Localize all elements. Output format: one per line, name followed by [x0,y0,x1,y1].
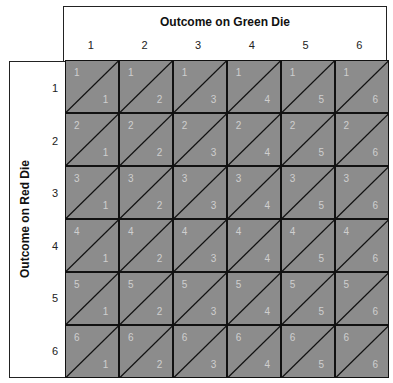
outcome-cell: 33 [174,167,226,218]
green-value: 4 [265,306,271,317]
green-value: 6 [372,94,378,105]
red-value: 6 [128,332,134,343]
outcome-cell: 64 [228,326,280,377]
red-value: 2 [344,120,350,131]
green-value: 5 [319,359,325,370]
green-value: 1 [103,200,109,211]
red-value: 2 [236,120,242,131]
outcome-cell: 54 [228,273,280,324]
red-value: 4 [182,226,188,237]
red-value: 5 [74,279,80,290]
green-value: 1 [103,94,109,105]
outcome-cell: 15 [282,61,334,112]
green-value: 5 [319,200,325,211]
outcome-cell: 34 [228,167,280,218]
row-label: 6 [52,325,58,378]
red-value: 3 [128,173,134,184]
outcome-cell: 63 [174,326,226,377]
col-label: 4 [225,39,279,51]
green-value: 3 [211,94,217,105]
green-value: 5 [319,306,325,317]
outcome-cell: 61 [66,326,118,377]
col-label: 2 [118,39,172,51]
outcome-cell: 36 [336,167,388,218]
red-value: 3 [182,173,188,184]
green-value: 5 [319,94,325,105]
row-label: 1 [52,62,58,115]
green-value: 1 [103,359,109,370]
red-value: 6 [182,332,188,343]
red-value: 1 [182,67,188,78]
red-value: 3 [74,173,80,184]
row-labels: 1 2 3 4 5 6 [52,62,58,377]
green-value: 3 [211,359,217,370]
green-value: 3 [211,147,217,158]
col-label: 5 [279,39,333,51]
outcome-grid: 1112131415162122232425263132333435364142… [65,60,389,378]
green-value: 2 [157,306,163,317]
outcome-cell: 14 [228,61,280,112]
red-value: 2 [290,120,296,131]
red-value: 3 [290,173,296,184]
red-value: 4 [344,226,350,237]
outcome-cell: 66 [336,326,388,377]
red-die-header: Outcome on Red Die 1 2 3 4 5 6 [9,61,66,378]
outcome-cell: 45 [282,220,334,271]
row-label: 2 [52,115,58,168]
red-value: 5 [344,279,350,290]
green-value: 2 [157,359,163,370]
green-value: 2 [157,253,163,264]
red-value: 1 [344,67,350,78]
red-value: 5 [182,279,188,290]
red-value: 6 [74,332,80,343]
outcome-cell: 65 [282,326,334,377]
green-value: 4 [265,253,271,264]
outcome-cell: 56 [336,273,388,324]
red-value: 5 [290,279,296,290]
outcome-cell: 46 [336,220,388,271]
red-die-title: Outcome on Red Die [18,74,32,364]
outcome-cell: 31 [66,167,118,218]
red-value: 4 [128,226,134,237]
red-value: 2 [128,120,134,131]
outcome-cell: 55 [282,273,334,324]
red-value: 2 [182,120,188,131]
col-label: 6 [332,39,386,51]
red-value: 6 [344,332,350,343]
red-value: 4 [74,226,80,237]
outcome-cell: 11 [66,61,118,112]
outcome-cell: 23 [174,114,226,165]
outcome-cell: 25 [282,114,334,165]
green-value: 6 [372,147,378,158]
outcome-cell: 43 [174,220,226,271]
green-value: 2 [157,147,163,158]
green-value: 1 [103,253,109,264]
green-value: 4 [265,147,271,158]
outcome-cell: 21 [66,114,118,165]
red-value: 6 [236,332,242,343]
outcome-cell: 32 [120,167,172,218]
green-die-title: Outcome on Green Die [64,15,386,29]
green-value: 6 [372,359,378,370]
outcome-cell: 53 [174,273,226,324]
outcome-cell: 62 [120,326,172,377]
green-value: 6 [372,200,378,211]
green-value: 6 [372,253,378,264]
green-value: 3 [211,200,217,211]
outcome-cell: 24 [228,114,280,165]
green-value: 2 [157,94,163,105]
outcome-cell: 16 [336,61,388,112]
outcome-cell: 13 [174,61,226,112]
red-value: 4 [290,226,296,237]
outcome-cell: 22 [120,114,172,165]
red-value: 1 [128,67,134,78]
outcome-cell: 41 [66,220,118,271]
outcome-cell: 42 [120,220,172,271]
green-value: 3 [211,253,217,264]
green-value: 5 [319,253,325,264]
red-value: 2 [74,120,80,131]
outcome-cell: 35 [282,167,334,218]
green-value: 4 [265,200,271,211]
outcome-cell: 51 [66,273,118,324]
green-value: 1 [103,306,109,317]
